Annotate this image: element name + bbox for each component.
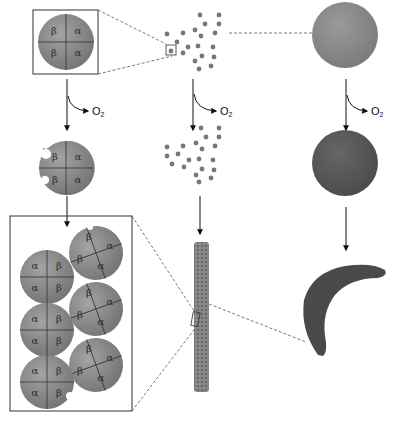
subunit-beta: β [77,366,83,376]
zoom-line-bottom [98,56,172,74]
zoom-line-fiber-bottom [132,326,197,411]
subunit-beta: β [52,152,58,162]
subunit-alpha: α [32,336,39,346]
subunit-beta: β [56,336,62,346]
subunit-alpha: α [32,366,39,376]
zoom-line-sickle [209,304,306,342]
subunit-beta: β [56,366,62,376]
oxygen-label-2: O2 [220,106,232,118]
oxygen-release-arrow-2 [194,94,216,111]
subunit-beta: β [77,310,83,320]
subunit-beta: β [77,254,83,264]
sickled-red-blood-cell [303,265,385,356]
subunit-beta: β [86,288,92,298]
oxygen-label-1: O2 [92,106,104,118]
hemoglobin-fiber [194,242,209,392]
oxygen-label-3: O2 [371,106,383,118]
dispersed-molecules-top [165,13,222,72]
sickle-cell-diagram [0,0,404,425]
subunit-alpha: α [32,388,39,398]
zoom-line-fiber-top [132,216,194,311]
subunit-alpha: α [32,261,39,271]
subunit-alpha: α [107,297,114,307]
oxygen-release-arrow-1 [68,96,88,111]
subunit-beta: β [56,261,62,271]
subunit-alpha: α [32,314,39,324]
subunit-beta: β [86,232,92,242]
subunit-alpha: α [75,152,82,162]
subunit-alpha: α [75,26,82,36]
subunit-alpha: α [75,175,82,185]
oxygenated-red-blood-cell [312,2,378,68]
subunit-alpha: α [75,48,82,58]
subunit-beta: β [52,175,58,185]
subunit-beta: β [56,314,62,324]
subunit-alpha: α [32,283,39,293]
subunit-alpha: α [107,241,114,251]
oxygen-release-arrow-3 [347,95,367,111]
zoom-line-top [98,10,166,44]
subunit-alpha: α [107,353,114,363]
deoxy-tetramer [39,141,95,195]
subunit-beta: β [51,26,57,36]
subunit-beta: β [51,48,57,58]
subunit-alpha: α [98,373,105,383]
dispersed-molecules-deoxy [165,126,222,185]
subunit-beta: β [56,283,62,293]
top-tetramer-box [33,10,98,74]
subunit-alpha: α [98,261,105,271]
subunit-beta: β [56,388,62,398]
deoxygenated-red-blood-cell [312,130,378,196]
subunit-alpha: α [98,317,105,327]
subunit-beta: β [86,344,92,354]
